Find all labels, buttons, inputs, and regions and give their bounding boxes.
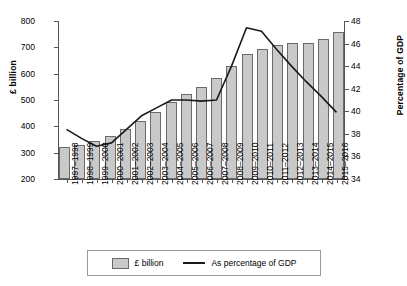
x-tick-label: 2011–2012 [280,143,290,185]
x-tick [322,179,323,183]
x-tick [337,179,338,183]
legend-label-line: As percentage of GDP [211,258,296,268]
y-tick-right [345,66,349,67]
x-tick [82,179,83,183]
x-tick [157,179,158,183]
legend-line-icon [183,262,205,264]
x-tick-label: 2009–2010 [250,142,260,185]
legend-item-line: As percentage of GDP [183,258,296,268]
legend-swatch-icon [112,258,129,269]
x-tick [142,179,143,183]
legend-label-bars: £ billion [135,258,164,268]
x-tick-label: 2006–2007 [205,142,215,185]
y-tick-label-right: 42 [351,85,391,94]
y-tick-left [54,47,58,48]
chart-container: £ billion Percentage of GDP 200300400500… [0,0,407,286]
x-tick-label: 2014–2015 [325,142,335,185]
x-tick [97,179,98,183]
x-tick [247,179,248,183]
y-tick-label-right: 46 [351,40,391,49]
x-tick-label: 2010–2011 [265,143,275,185]
y-tick-label-right: 40 [351,107,391,116]
y-tick-right [345,134,349,135]
x-tick [67,179,68,183]
x-tick-label: 2013–2014 [310,142,320,185]
y-tick-left [54,100,58,101]
y-tick-right [345,21,349,22]
x-tick [202,179,203,183]
x-tick-label: 2012–2013 [295,142,305,185]
y-tick-left [54,21,58,22]
y-tick-label-right: 38 [351,130,391,139]
y-tick-label-left: 600 [0,70,35,79]
x-tick-label: 2008–2009 [235,142,245,185]
x-tick [292,179,293,183]
legend-item-bars: £ billion [112,258,164,269]
chart-legend: £ billion As percentage of GDP [87,250,321,276]
y-tick-label-right: 44 [351,62,391,71]
y-tick-label-right: 34 [351,175,391,184]
y-tick-left [54,179,58,180]
x-tick-label: 2015–2016 [340,142,350,185]
plot-area: 200300400500600700800 3436384042444648 1… [59,21,344,179]
x-tick-label: 2005–2006 [190,142,200,185]
x-tick-label: 1997–1998 [70,142,80,185]
x-tick-label: 2000–2001 [115,142,125,185]
y-tick-label-left: 700 [0,43,35,52]
x-tick [232,179,233,183]
y-tick-left [54,74,58,75]
y-tick-label-right: 48 [351,17,391,26]
x-tick [112,179,113,183]
x-tick [217,179,218,183]
x-tick [262,179,263,183]
x-tick [277,179,278,183]
y-tick-label-left: 500 [0,96,35,105]
x-tick [307,179,308,183]
y-tick-left [54,153,58,154]
y-axis-right-title: Percentage of GDP [395,27,405,123]
x-tick-label: 2003–2004 [160,142,170,185]
x-tick [127,179,128,183]
x-tick-label: 1999–2000 [100,142,110,185]
y-tick-right [345,44,349,45]
y-tick-label-left: 800 [0,17,35,26]
y-tick-label-left: 300 [0,149,35,158]
y-tick-label-left: 400 [0,122,35,131]
x-tick-label: 2007–2008 [220,142,230,185]
x-tick-label: 1998–1999 [85,142,95,185]
x-tick [187,179,188,183]
y-tick-right [345,111,349,112]
y-tick-right [345,89,349,90]
y-tick-label-right: 36 [351,152,391,161]
x-tick-label: 2001–2002 [130,142,140,185]
y-tick-label-left: 200 [0,175,35,184]
x-tick-label: 2004–2005 [175,142,185,185]
x-tick-label: 2002–2003 [145,142,155,185]
x-tick [172,179,173,183]
y-tick-left [54,126,58,127]
